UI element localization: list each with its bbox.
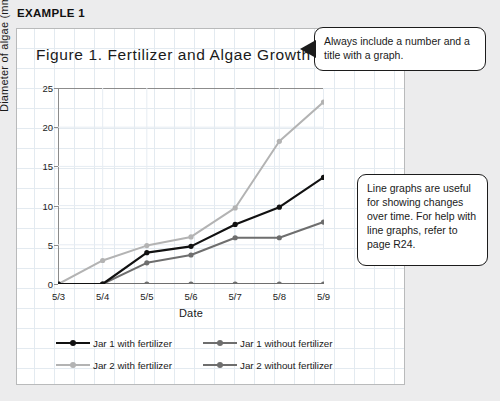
- data-point: [277, 235, 282, 240]
- x-tick-label: 5/7: [229, 291, 242, 302]
- x-tick-label: 5/4: [96, 291, 109, 302]
- data-point: [144, 281, 149, 284]
- y-axis-label: Diameter of algae (mm): [0, 0, 10, 112]
- data-point: [144, 260, 149, 265]
- data-point: [233, 235, 238, 240]
- legend-item: Jar 1 without fertilizer: [203, 338, 333, 349]
- y-tick-mark: [54, 166, 58, 167]
- data-point: [277, 205, 282, 210]
- y-tick-mark: [54, 245, 58, 246]
- y-tick-mark: [54, 206, 58, 207]
- data-point: [233, 205, 238, 210]
- x-tick-label: 5/6: [184, 291, 197, 302]
- line-chart-svg: [58, 88, 324, 284]
- x-tick-label: 5/9: [317, 291, 330, 302]
- y-tick-label: 15: [42, 161, 53, 172]
- callout-usage-note: Line graphs are useful for showing chang…: [357, 174, 488, 266]
- data-point: [233, 281, 238, 284]
- data-point: [188, 244, 193, 249]
- x-tick-label: 5/8: [273, 291, 286, 302]
- legend-row: Jar 2 with fertilizerJar 2 without ferti…: [56, 354, 356, 376]
- y-tick-label: 5: [48, 239, 53, 250]
- legend-item: Jar 2 without fertilizer: [203, 360, 333, 371]
- legend-item: Jar 1 with fertilizer: [56, 338, 203, 349]
- legend-label: Jar 2 without fertilizer: [240, 360, 333, 371]
- y-tick-label: 20: [42, 122, 53, 133]
- callout-tail-icon: [300, 40, 316, 58]
- data-point: [188, 281, 193, 284]
- legend-swatch-icon: [203, 360, 237, 370]
- legend-item: Jar 2 with fertilizer: [56, 360, 203, 371]
- legend-row: Jar 1 with fertilizerJar 1 without ferti…: [56, 332, 356, 354]
- legend-swatch-icon: [56, 338, 90, 348]
- y-tick-mark: [54, 127, 58, 128]
- callout-usage-note-text: Line graphs are useful for showing chang…: [367, 182, 476, 250]
- y-tick-mark: [54, 88, 58, 89]
- callout-title-note: Always include a number and a title with…: [314, 27, 486, 71]
- data-point: [188, 234, 193, 239]
- chart-title: Figure 1. Fertilizer and Algae Growth: [36, 46, 311, 64]
- legend-label: Jar 1 without fertilizer: [240, 338, 333, 349]
- callout-title-note-text: Always include a number and a title with…: [324, 35, 470, 61]
- data-point: [188, 252, 193, 257]
- y-tick-label: 10: [42, 200, 53, 211]
- data-point: [321, 219, 324, 224]
- legend-label: Jar 2 with fertilizer: [93, 360, 172, 371]
- y-tick-label: 25: [42, 83, 53, 94]
- plot-area: 05101520255/35/45/55/65/75/85/9: [58, 88, 324, 284]
- data-point: [277, 281, 282, 284]
- chart-legend: Jar 1 with fertilizerJar 1 without ferti…: [56, 332, 356, 376]
- data-point: [144, 243, 149, 248]
- page-title: EXAMPLE 1: [17, 7, 85, 19]
- data-point: [144, 250, 149, 255]
- legend-label: Jar 1 with fertilizer: [93, 338, 172, 349]
- data-point: [100, 258, 105, 263]
- data-point: [277, 139, 282, 144]
- x-tick-label: 5/3: [52, 291, 65, 302]
- x-axis-label: Date: [58, 307, 324, 319]
- legend-swatch-icon: [56, 360, 90, 370]
- data-point: [233, 222, 238, 227]
- x-tick-label: 5/5: [140, 291, 153, 302]
- data-point: [321, 281, 324, 284]
- y-tick-label: 0: [48, 279, 53, 290]
- legend-swatch-icon: [203, 338, 237, 348]
- y-tick-mark: [54, 284, 58, 285]
